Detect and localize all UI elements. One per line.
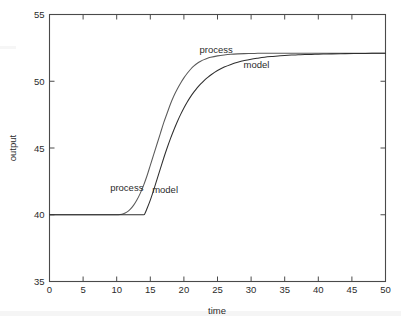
x-tick-label: 30 bbox=[246, 284, 257, 295]
plot-canvas: 05101520253035404550 3540455055 processm… bbox=[0, 0, 401, 322]
x-tick-label: 50 bbox=[380, 284, 391, 295]
x-tick-label: 40 bbox=[313, 284, 324, 295]
x-tick-label: 15 bbox=[145, 284, 156, 295]
scan-artifact-bottom bbox=[0, 311, 401, 316]
x-tick-label: 20 bbox=[179, 284, 190, 295]
x-tick-label: 45 bbox=[347, 284, 358, 295]
y-tick-label: 40 bbox=[34, 209, 45, 220]
x-axis-title: time bbox=[208, 305, 226, 316]
x-tick-label: 5 bbox=[80, 284, 85, 295]
annotation-model: model bbox=[152, 184, 178, 195]
annotation-model: model bbox=[244, 59, 270, 70]
x-tick-label: 0 bbox=[47, 284, 52, 295]
chart-figure: 05101520253035404550 3540455055 processm… bbox=[0, 0, 401, 322]
y-tick-label: 50 bbox=[34, 76, 45, 87]
annotation-process: process bbox=[200, 44, 234, 55]
y-tick-label: 35 bbox=[34, 276, 45, 287]
x-tick-label: 25 bbox=[212, 284, 223, 295]
scan-artifact-left bbox=[0, 46, 16, 49]
x-tick-label: 35 bbox=[279, 284, 290, 295]
y-tick-label: 45 bbox=[34, 143, 45, 154]
y-tick-label: 55 bbox=[34, 9, 45, 20]
x-tick-label: 10 bbox=[111, 284, 122, 295]
y-axis-title: output bbox=[7, 134, 18, 161]
annotation-process: process bbox=[110, 182, 144, 193]
